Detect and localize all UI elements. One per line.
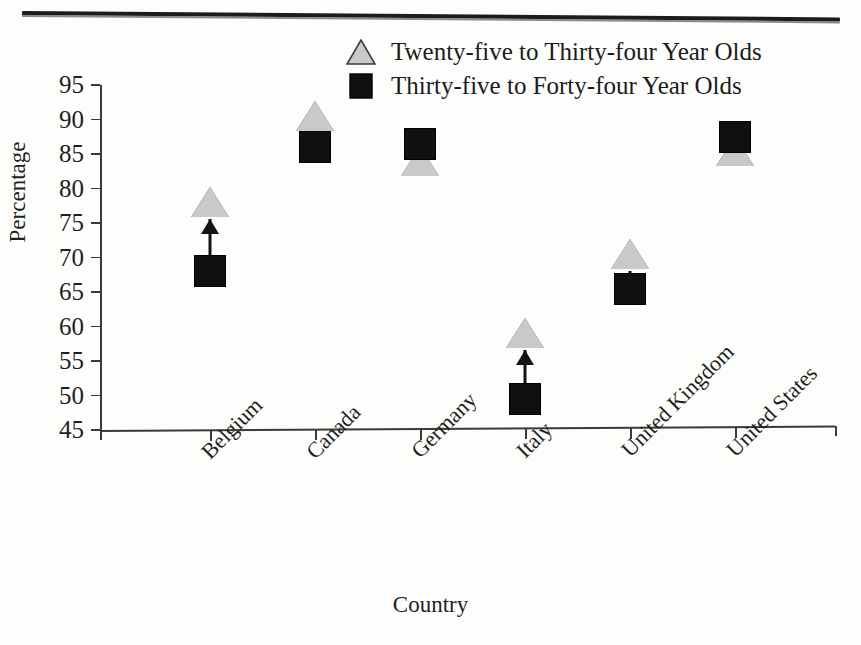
y-axis-tick-label: 55	[28, 348, 84, 373]
y-axis-tick-label: 45	[28, 417, 84, 442]
y-axis-tick-label: 60	[28, 314, 84, 339]
y-axis-tick	[91, 153, 100, 155]
y-axis-tick	[91, 84, 100, 86]
y-axis-tick-label: 70	[28, 245, 84, 270]
data-point-triangle	[611, 239, 649, 269]
y-axis-tick	[91, 291, 100, 293]
data-point-triangle	[506, 318, 544, 348]
y-axis-tick-label: 50	[28, 383, 84, 408]
data-point-square	[194, 255, 226, 287]
y-axis-tick-label: 80	[28, 176, 84, 201]
data-point-square	[404, 128, 436, 160]
data-point-square	[509, 383, 541, 415]
data-point-triangle	[191, 187, 229, 217]
y-axis-tick	[91, 119, 100, 121]
data-point-square	[614, 273, 646, 305]
change-arrow-head	[201, 219, 219, 234]
y-axis-tick-label: 65	[28, 279, 84, 304]
y-axis-tick-label: 90	[28, 107, 84, 132]
y-axis-tick-label: 75	[28, 210, 84, 235]
data-point-square	[299, 131, 331, 163]
y-axis-tick	[91, 257, 100, 259]
y-axis-tick-label: 85	[28, 141, 84, 166]
data-point-square	[719, 121, 751, 153]
y-axis-tick	[91, 360, 100, 362]
data-point-triangle	[296, 101, 334, 131]
y-axis-tick-label: 95	[28, 72, 84, 97]
legend-label: Twenty-five to Thirty-four Year Olds	[391, 39, 762, 64]
figure-canvas: Twenty-five to Thirty-four Year Olds Thi…	[0, 0, 861, 645]
y-axis-line	[100, 85, 102, 430]
change-arrow-head	[516, 350, 534, 365]
triangle-marker-icon	[345, 39, 377, 65]
x-axis-end-tick	[100, 430, 102, 440]
y-axis-tick	[91, 429, 100, 431]
y-axis-tick	[91, 326, 100, 328]
x-axis-end-tick	[835, 426, 837, 436]
legend-item-twenty-five-to-thirty-four: Twenty-five to Thirty-four Year Olds	[345, 36, 762, 67]
page-rule-line	[22, 11, 840, 21]
plot-area: 9590858075706560555045	[100, 85, 835, 430]
y-axis-tick	[91, 222, 100, 224]
x-axis-title: Country	[0, 592, 861, 618]
y-axis-tick	[91, 395, 100, 397]
y-axis-tick	[91, 188, 100, 190]
